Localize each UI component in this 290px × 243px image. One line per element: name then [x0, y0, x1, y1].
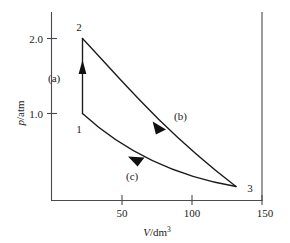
- y-axis-title-group: p/atm: [14, 100, 26, 127]
- y-axis-title: p/atm: [14, 100, 26, 127]
- state-point-label-1: 1: [76, 123, 82, 135]
- process-b-label: (b): [174, 110, 187, 123]
- process-c-label: (c): [126, 170, 139, 183]
- pv-diagram-svg: 2.0 1.0 50 100 150 p/atm V/dm3 (a): [0, 0, 290, 243]
- y-ticklabel-1: 1.0: [29, 108, 43, 120]
- y-axis-unit: atm: [14, 100, 26, 117]
- state-point-label-2: 2: [76, 21, 82, 33]
- x-axis-unit: dm: [153, 226, 168, 238]
- process-c-path: [83, 114, 237, 187]
- x-axis-title: V/dm3: [143, 225, 171, 238]
- process-a-label: (a): [48, 72, 61, 85]
- state-point-label-3: 3: [247, 182, 253, 194]
- x-axis-exponent: 3: [167, 225, 171, 234]
- process-a-group: [79, 39, 87, 114]
- process-c-arrowhead: [128, 157, 145, 167]
- x-ticklabel-50: 50: [117, 207, 129, 219]
- pv-cycle-figure: 2.0 1.0 50 100 150 p/atm V/dm3 (a): [0, 0, 290, 243]
- x-ticklabel-150: 150: [257, 207, 274, 219]
- y-ticklabel-2: 2.0: [29, 33, 43, 45]
- process-c-group: [83, 114, 237, 187]
- process-b-arrowhead: [153, 122, 166, 135]
- cropped-caption-text: [14, 0, 276, 7]
- x-ticklabel-100: 100: [184, 207, 201, 219]
- process-a-arrowhead: [79, 60, 87, 74]
- x-axis-title-group: V/dm3: [143, 225, 171, 238]
